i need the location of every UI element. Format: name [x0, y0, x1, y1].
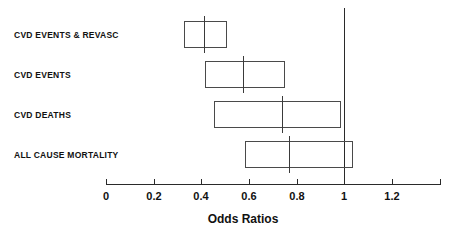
x-axis-tick-label-0-6: 0.6: [229, 191, 269, 202]
confidence-interval-box-cvd-events: [205, 61, 285, 88]
x-axis-tick-0-6: [249, 179, 250, 185]
x-axis-tick-label-0-8: 0.8: [277, 191, 317, 202]
x-axis-line: [106, 184, 440, 185]
x-axis-tick-1: [344, 179, 345, 185]
x-axis-tick-0-2: [154, 179, 155, 185]
confidence-interval-box-all-cause-mortality: [245, 141, 353, 168]
point-estimate-line-cvd-events-revasc: [204, 16, 205, 53]
x-axis-tick-label-1-2: 1.2: [372, 191, 412, 202]
x-axis-tick-label-0-2: 0.2: [134, 191, 174, 202]
category-label-cvd-events: CVD EVENTS: [14, 71, 71, 80]
confidence-interval-box-cvd-events-revasc: [184, 21, 227, 48]
category-label-cvd-events-revasc: CVD EVENTS & REVASC: [14, 31, 119, 40]
confidence-interval-box-cvd-deaths: [214, 101, 341, 128]
category-label-all-cause-mortality: ALL CAUSE MORTALITY: [14, 151, 119, 160]
x-axis-tick-label-0-4: 0.4: [181, 191, 221, 202]
x-axis-tick-label-1: 1: [324, 191, 364, 202]
x-axis-tick-0-8: [297, 179, 298, 185]
x-axis-tick-label-0: 0: [86, 191, 126, 202]
x-axis-tick-0-4: [201, 179, 202, 185]
x-axis-tick-0: [106, 179, 107, 185]
point-estimate-line-all-cause-mortality: [289, 136, 290, 173]
x-axis-tick-end: [440, 179, 441, 185]
x-axis-title: Odds Ratios: [163, 213, 323, 225]
odds-ratio-forest-chart: CVD EVENTS & REVASC CVD EVENTS CVD DEATH…: [0, 0, 455, 240]
point-estimate-line-cvd-deaths: [282, 96, 283, 133]
x-axis-tick-1-2: [392, 179, 393, 185]
category-label-cvd-deaths: CVD DEATHS: [14, 111, 71, 120]
point-estimate-line-cvd-events: [243, 56, 244, 93]
